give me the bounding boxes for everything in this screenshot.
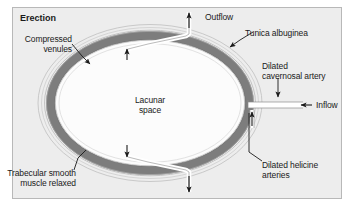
label-dilated-helicine-arteries: Dilated helicine arteries xyxy=(262,160,318,180)
label-outflow: Outflow xyxy=(205,12,233,22)
label-dilated-cavernosal-artery: Dilated cavernosal artery xyxy=(262,61,326,81)
dilated-cavernosal-artery-channel xyxy=(248,100,303,110)
figure-root: Erection Outflow Tunica albuginea Compre… xyxy=(0,0,353,214)
label-inflow: Inflow xyxy=(316,100,338,110)
label-lacunar-space: Lacunar space xyxy=(115,95,185,115)
label-tunica-albuginea: Tunica albuginea xyxy=(245,28,308,38)
label-compressed-venules: Compressed venules xyxy=(0,34,72,54)
figure-title: Erection xyxy=(20,13,56,23)
label-trabecular-smooth-muscle: Trabecular smooth muscle relaxed xyxy=(0,168,76,188)
